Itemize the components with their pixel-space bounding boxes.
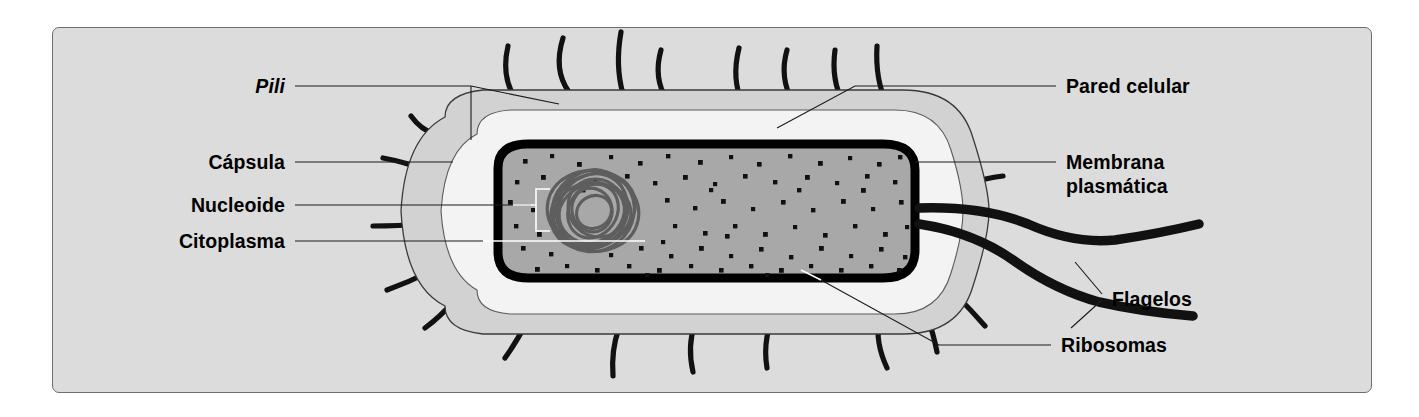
label-nucleoide: Nucleoide — [191, 194, 285, 216]
label-citoplasma: Citoplasma — [179, 230, 285, 252]
leader-flagelos-lower — [1071, 300, 1102, 328]
diagram-panel: Pili Cápsula Nucleoide Citoplasma Pared … — [52, 27, 1372, 393]
leader-flagelos-upper — [1075, 262, 1102, 294]
label-membrana-plasmatica-line2: plasmática — [1066, 175, 1168, 197]
label-pared-celular: Pared celular — [1066, 75, 1190, 97]
label-pili: Pili — [255, 75, 285, 97]
label-capsula: Cápsula — [208, 151, 285, 173]
label-ribosomas: Ribosomas — [1061, 334, 1167, 356]
label-membrana-plasmatica-line1: Membrana — [1066, 151, 1164, 173]
prokaryotic-cell-diagram: Pili Cápsula Nucleoide Citoplasma Pared … — [53, 28, 1372, 393]
label-flagelos: Flagelos — [1112, 288, 1192, 310]
figure-root: Pili Cápsula Nucleoide Citoplasma Pared … — [0, 0, 1419, 417]
